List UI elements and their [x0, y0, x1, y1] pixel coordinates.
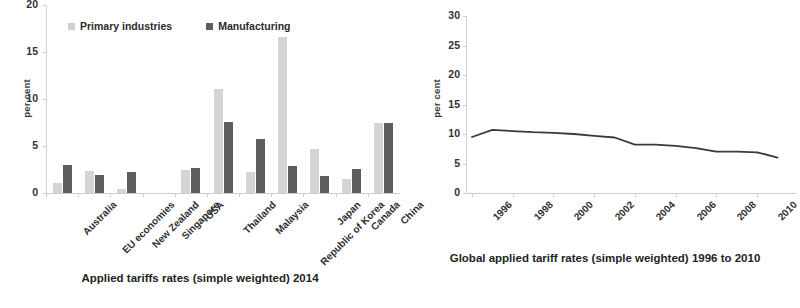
bar-chart-x-tickmark — [368, 194, 369, 197]
bar-chart-x-tickmark — [110, 194, 111, 197]
bar-manufacturing — [127, 172, 136, 193]
bar-chart-x-tickmark — [78, 194, 79, 197]
bar-primary-industries — [214, 89, 223, 193]
line-chart-x-label-2008: 2008 — [735, 199, 759, 223]
line-chart-x-label-2006: 2006 — [694, 199, 718, 223]
bar-chart-y-tick-20: 20 — [10, 0, 38, 10]
line-chart-y-tick-15: 15 — [430, 98, 460, 110]
line-chart-x-tickmark — [716, 194, 717, 197]
bar-chart-x-tickmark — [239, 194, 240, 197]
bar-chart-plot-area — [46, 5, 400, 193]
bar-manufacturing — [224, 122, 233, 193]
line-chart-x-tickmark — [635, 194, 636, 197]
bar-primary-industries — [85, 171, 94, 193]
bar-chart-x-tickmark — [336, 194, 337, 197]
bar-primary-industries — [117, 189, 126, 193]
line-chart-y-tick-20: 20 — [430, 68, 460, 80]
line-chart-x-label-2010: 2010 — [776, 199, 800, 223]
line-chart-x-label-2000: 2000 — [572, 199, 596, 223]
bar-chart-panel: per cent 05101520 Primary industries Man… — [0, 0, 400, 308]
bar-manufacturing — [95, 175, 104, 193]
bar-primary-industries — [53, 183, 62, 193]
bar-chart-y-tick-15: 15 — [10, 45, 38, 57]
bar-primary-industries — [374, 123, 383, 194]
bar-manufacturing — [320, 176, 329, 193]
line-chart-panel: per cent 051015202530 199619982000200220… — [410, 0, 800, 308]
line-chart-x-label-2002: 2002 — [613, 199, 637, 223]
bar-chart-x-tickmark — [271, 194, 272, 197]
bar-manufacturing — [256, 139, 265, 193]
bar-chart-x-tickmark — [175, 194, 176, 197]
bar-primary-industries — [342, 179, 351, 193]
bar-manufacturing — [384, 123, 393, 193]
line-chart-y-tick-25: 25 — [430, 39, 460, 51]
line-chart-y-tick-10: 10 — [430, 127, 460, 139]
line-chart-x-tickmark — [594, 194, 595, 197]
line-chart-y-tick-0: 0 — [430, 186, 460, 198]
bar-primary-industries — [278, 37, 287, 193]
bar-chart-x-tickmark — [303, 194, 304, 197]
bar-chart-x-label-thailand: Thailand — [241, 199, 278, 236]
line-chart-series-path — [466, 16, 796, 193]
bar-chart-x-axis-line — [46, 193, 400, 194]
line-chart-x-label-1998: 1998 — [531, 199, 555, 223]
bar-manufacturing — [63, 165, 72, 193]
bar-primary-industries — [310, 149, 319, 193]
line-chart-x-tickmark — [757, 194, 758, 197]
bar-chart-x-tickmark — [46, 194, 47, 197]
bar-chart-y-tick-5: 5 — [10, 139, 38, 151]
line-chart-x-tickmark — [676, 194, 677, 197]
bar-chart-x-label-malaysia: Malaysia — [273, 199, 310, 236]
line-chart-y-tick-5: 5 — [430, 157, 460, 169]
bar-chart-x-label-australia: Australia — [81, 199, 119, 237]
bar-manufacturing — [191, 168, 200, 193]
line-chart-x-tickmark — [553, 194, 554, 197]
line-chart-x-label-1996: 1996 — [491, 199, 515, 223]
bar-chart-caption: Applied tariffs rates (simple weighted) … — [0, 272, 400, 284]
line-chart-y-tick-30: 30 — [430, 9, 460, 21]
bar-chart-y-tick-10: 10 — [10, 92, 38, 104]
line-chart-x-tickmark — [472, 194, 473, 197]
line-chart-x-tickmark — [513, 194, 514, 197]
figure-root: per cent 05101520 Primary industries Man… — [0, 0, 800, 308]
bar-chart-x-tickmark — [143, 194, 144, 197]
line-chart-plot-area — [466, 16, 796, 193]
line-chart-x-axis-line — [466, 193, 796, 194]
bar-manufacturing — [288, 166, 297, 193]
bar-chart-x-tickmark — [207, 194, 208, 197]
bar-manufacturing — [352, 169, 361, 193]
bar-primary-industries — [181, 170, 190, 193]
line-chart-caption: Global applied tariff rates (simple weig… — [410, 252, 800, 264]
line-chart-x-label-2004: 2004 — [653, 199, 677, 223]
bar-chart-y-tick-0: 0 — [10, 186, 38, 198]
bar-primary-industries — [246, 172, 255, 193]
